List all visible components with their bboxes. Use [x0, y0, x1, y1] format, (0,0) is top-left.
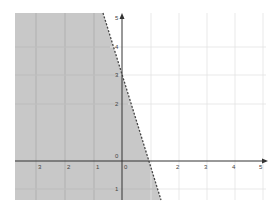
shaded-region	[15, 13, 161, 200]
y-axis-arrow-icon	[120, 13, 125, 19]
y-tick-label: 5	[115, 15, 119, 21]
x-axis-arrow-icon	[262, 159, 268, 164]
x-tick-label: 5	[259, 164, 263, 170]
inequality-graph: 3 2 1 0 2 3 4 5 1 0 2 3 4 5	[0, 0, 279, 214]
